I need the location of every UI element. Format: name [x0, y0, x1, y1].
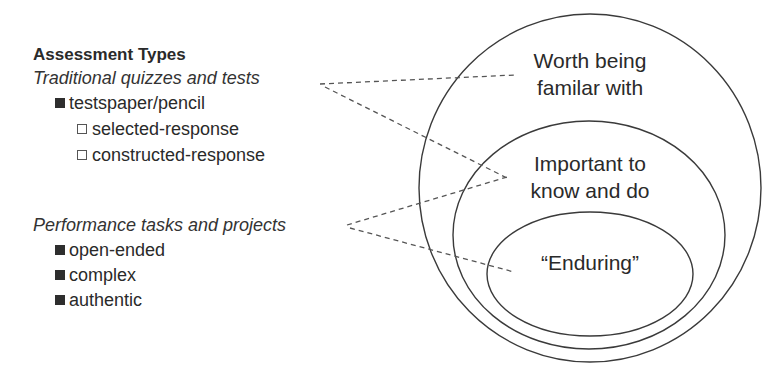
subitem-constructed-response: constructed-response	[77, 146, 265, 164]
connector-traditional-to-important	[325, 87, 507, 178]
open-square-bullet-icon	[77, 124, 87, 134]
category-performance: Performance tasks and projects	[33, 216, 286, 234]
outer-label-line2: familar with	[500, 74, 680, 101]
open-square-bullet-icon	[77, 150, 87, 160]
filled-square-bullet-icon	[55, 270, 65, 280]
middle-label-line2: know and do	[500, 177, 680, 204]
item-label: testspaper/pencil	[69, 94, 205, 112]
assessment-diagram: Assessment Types Traditional quizzes and…	[0, 0, 784, 385]
connector-performance-to-enduring	[350, 228, 514, 272]
item-authentic: authentic	[55, 291, 142, 309]
category-traditional: Traditional quizzes and tests	[33, 69, 260, 87]
filled-square-bullet-icon	[55, 98, 65, 108]
outer-region-label: Worth being familar with	[500, 47, 680, 101]
legend-heading: Assessment Types	[33, 46, 186, 63]
subitem-label: selected-response	[92, 120, 239, 138]
item-label: complex	[69, 266, 136, 284]
item-label: open-ended	[69, 241, 165, 259]
middle-label-line1: Important to	[500, 150, 680, 177]
item-open-ended: open-ended	[55, 241, 165, 259]
inner-region-label: “Enduring”	[500, 249, 680, 276]
subitem-selected-response: selected-response	[77, 120, 239, 138]
outer-label-line1: Worth being	[500, 47, 680, 74]
filled-square-bullet-icon	[55, 245, 65, 255]
item-label: authentic	[69, 291, 142, 309]
item-complex: complex	[55, 266, 136, 284]
filled-square-bullet-icon	[55, 295, 65, 305]
connector-performance-to-important	[347, 177, 507, 225]
connector-traditional-to-worth	[320, 75, 515, 84]
subitem-label: constructed-response	[92, 146, 265, 164]
item-tests-paper-pencil: testspaper/pencil	[55, 94, 205, 112]
middle-region-label: Important to know and do	[500, 150, 680, 204]
